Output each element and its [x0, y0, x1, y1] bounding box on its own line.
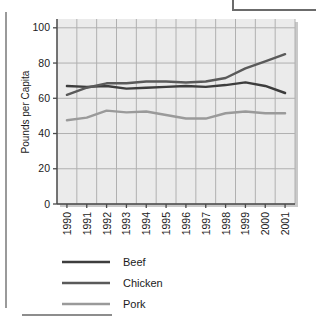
- x-tick-label: 2000: [259, 212, 271, 236]
- y-tick-label: 40: [38, 127, 50, 139]
- x-tick-label: 1991: [81, 212, 93, 236]
- y-axis-label: Pounds per Capita: [20, 70, 31, 153]
- y-tick-label: 80: [38, 57, 50, 69]
- y-tick-label: 20: [38, 162, 50, 174]
- x-tick-label: 1993: [120, 212, 132, 236]
- legend-label-beef: Beef: [123, 256, 147, 268]
- chart-legend: BeefChickenPork: [62, 256, 163, 310]
- x-tick-label: 1995: [160, 212, 172, 236]
- x-tick-label: 1999: [239, 212, 251, 236]
- y-tick-label: 0: [44, 198, 50, 210]
- x-tick-label: 1998: [220, 212, 232, 236]
- x-tick-label: 1997: [200, 212, 212, 236]
- chart-svg: 020406080100 199019911992199319941995199…: [0, 0, 316, 323]
- y-tick-label: 100: [32, 21, 50, 33]
- line-chart-figure: 020406080100 199019911992199319941995199…: [0, 0, 316, 323]
- x-tick-label: 2001: [279, 212, 291, 236]
- x-axis-ticks: 1990199119921993199419951996199719981999…: [61, 204, 291, 235]
- x-tick-label: 1990: [61, 212, 73, 236]
- x-tick-label: 1994: [140, 212, 152, 236]
- legend-label-chicken: Chicken: [123, 277, 163, 289]
- x-tick-label: 1996: [180, 212, 192, 236]
- y-axis-ticks: 020406080100: [32, 21, 57, 209]
- x-tick-label: 1992: [101, 212, 113, 236]
- legend-label-pork: Pork: [123, 298, 146, 310]
- y-tick-label: 60: [38, 92, 50, 104]
